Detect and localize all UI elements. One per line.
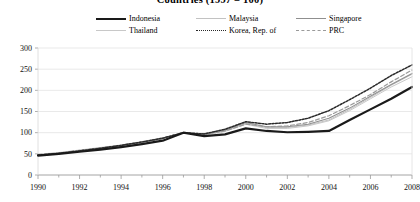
y-tick-label: 200 [20,86,32,95]
legend-label-singapore: Singapore [329,14,361,23]
x-tick-label: 2000 [238,183,254,192]
series-line [38,70,412,155]
legend-item-indonesia[interactable]: Indonesia [96,12,196,24]
chart-container: Countries (1997 = 100) Indonesia Malaysi… [0,0,420,202]
y-tick-label: 50 [24,150,32,159]
legend-item-malaysia[interactable]: Malaysia [196,12,296,24]
legend-swatch-singapore [296,14,326,22]
x-tick-label: 2004 [321,183,337,192]
legend-item-thailand[interactable]: Thailand [96,24,196,36]
y-tick-label: 0 [28,171,32,180]
legend-item-prc[interactable]: PRC [296,24,396,36]
legend-label-prc: PRC [329,26,344,35]
legend-swatch-indonesia [96,14,126,22]
x-tick-label: 1994 [113,183,129,192]
y-tick-label: 150 [20,107,32,116]
x-tick-label: 2008 [404,183,420,192]
legend-swatch-malaysia [196,14,226,22]
chart-legend: Indonesia Malaysia Singapore Thailand Ko… [96,12,396,36]
y-axis-labels: 050100150200250300 [20,44,32,180]
chart-title: Countries (1997 = 100) [0,0,420,5]
legend-swatch-prc [296,26,326,34]
y-tick-label: 250 [20,65,32,74]
legend-swatch-thailand [96,26,126,34]
legend-label-korea: Korea, Rep. of [229,26,276,35]
series-line [38,74,412,154]
x-axis-labels: 1990199219941996199820002002200420062008 [30,183,420,192]
x-axis-ticks [38,175,412,179]
series-line [38,65,412,155]
series-line [38,73,412,155]
series-line [38,87,412,156]
x-tick-label: 1992 [72,183,88,192]
legend-label-malaysia: Malaysia [229,14,258,23]
x-tick-label: 1998 [196,183,212,192]
y-tick-label: 100 [20,128,32,137]
y-tick-label: 300 [20,44,32,53]
plot-svg: 050100150200250300 199019921994199619982… [0,44,420,202]
series-line [38,77,412,154]
legend-label-indonesia: Indonesia [129,14,160,23]
data-series-group [38,65,412,156]
legend-item-korea[interactable]: Korea, Rep. of [196,24,296,36]
x-tick-label: 2002 [279,183,295,192]
x-tick-label: 1990 [30,183,46,192]
legend-swatch-korea [196,26,226,34]
gridlines [38,48,412,154]
x-tick-label: 1996 [155,183,171,192]
legend-label-thailand: Thailand [129,26,157,35]
x-tick-label: 2006 [362,183,378,192]
plot-area: 050100150200250300 199019921994199619982… [0,44,420,202]
legend-item-singapore[interactable]: Singapore [296,12,396,24]
